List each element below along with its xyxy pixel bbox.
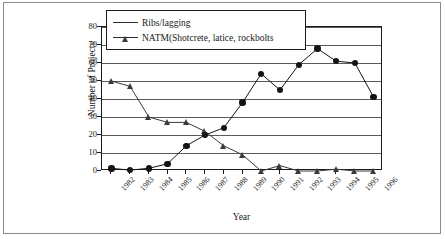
data-point <box>145 114 151 120</box>
y-tick-mark <box>97 134 101 135</box>
data-point <box>221 125 227 131</box>
data-point <box>295 168 301 174</box>
data-point <box>333 58 339 64</box>
data-point <box>127 83 133 89</box>
data-point <box>314 45 320 51</box>
legend-label-natm: NATM(Shotcrete, latice, rockbolts <box>142 33 273 43</box>
data-point <box>277 87 283 93</box>
data-point <box>258 71 264 77</box>
y-tick-label: 30 <box>89 112 98 121</box>
data-point <box>164 161 170 167</box>
chart-legend: Ribs/lagging NATM(Shotcrete, latice, roc… <box>106 10 306 50</box>
data-point <box>296 62 302 68</box>
data-point <box>183 143 189 149</box>
y-tick-mark <box>97 98 101 99</box>
data-point <box>108 78 114 84</box>
y-tick-label: 80 <box>89 22 98 31</box>
circle-marker-icon <box>113 32 138 43</box>
data-point <box>239 152 245 158</box>
data-point <box>276 163 282 169</box>
data-point <box>333 166 339 172</box>
data-point <box>108 165 114 171</box>
data-point <box>314 168 320 174</box>
triangle-marker-icon <box>113 17 138 28</box>
legend-item-ribs: Ribs/lagging <box>113 15 299 30</box>
y-axis: Number of Projects 01020304050607080 <box>74 0 97 239</box>
data-point <box>164 119 170 125</box>
data-point <box>351 168 357 174</box>
legend-label-ribs: Ribs/lagging <box>142 18 191 28</box>
data-point <box>370 168 376 174</box>
y-tick-label: 70 <box>89 40 98 49</box>
y-tick-mark <box>97 44 101 45</box>
data-point <box>202 132 208 138</box>
y-tick-label: 10 <box>89 148 98 157</box>
y-tick-label: 20 <box>89 130 98 139</box>
data-point <box>220 143 226 149</box>
data-point <box>258 168 264 174</box>
y-tick-mark <box>97 152 101 153</box>
y-tick-mark <box>97 116 101 117</box>
x-axis-title: Year <box>101 212 382 222</box>
y-tick-mark <box>97 26 101 27</box>
y-tick-mark <box>97 62 101 63</box>
y-tick-label: 40 <box>89 94 98 103</box>
data-point <box>239 99 245 105</box>
y-tick-mark <box>97 80 101 81</box>
data-point <box>370 94 376 100</box>
legend-item-natm: NATM(Shotcrete, latice, rockbolts <box>113 30 299 45</box>
chart-figure: Number of Projects 01020304050607080 198… <box>0 0 445 239</box>
y-tick-label: 50 <box>89 76 98 85</box>
y-tick-mark <box>97 170 101 171</box>
y-tick-label: 60 <box>89 58 98 67</box>
data-point <box>127 167 133 173</box>
data-point <box>352 60 358 66</box>
data-point <box>146 165 152 171</box>
data-point <box>183 119 189 125</box>
